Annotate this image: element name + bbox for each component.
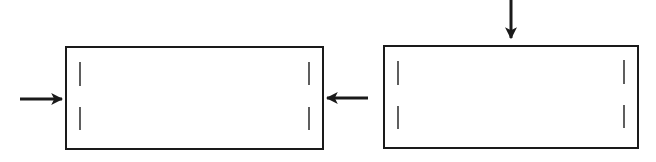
diagram-canvas <box>0 0 656 162</box>
right-panel <box>384 46 638 148</box>
panel-rectangle <box>384 46 638 148</box>
panel-rectangle <box>66 47 323 149</box>
left-panel <box>66 47 323 149</box>
arrows-group <box>20 0 511 99</box>
